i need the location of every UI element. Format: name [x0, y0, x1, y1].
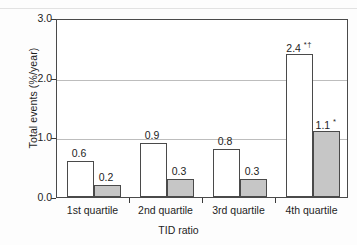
bar-value-label: 0.3	[157, 165, 202, 177]
x-category-label: 4th quartile	[275, 204, 348, 216]
bar-solid-2	[167, 179, 194, 197]
x-category-label: 3rd quartile	[202, 204, 275, 216]
significance-marker: *†	[304, 40, 312, 49]
bar-value-label: 2.4 *†	[273, 40, 326, 54]
x-category-label: 2nd quartile	[129, 204, 202, 216]
bar-value-label: 0.6	[57, 147, 102, 159]
y-tick-label: 0.0	[26, 191, 52, 203]
y-axis-ticks: 0.01.02.03.0	[22, 0, 52, 245]
x-tick-mark	[129, 198, 130, 203]
x-tick-mark	[275, 198, 276, 203]
scan-edge-line	[0, 8, 357, 9]
x-tick-mark	[202, 198, 203, 203]
significance-marker: *	[333, 117, 336, 126]
y-tick-mark	[51, 79, 56, 80]
y-tick-mark	[51, 198, 56, 199]
bar-value-label: 1.1 *	[300, 117, 353, 131]
y-tick-mark	[51, 19, 56, 20]
bar-solid-3	[240, 179, 267, 197]
figure-panel: Total events (%/year) 0.01.02.03.0 TID r…	[0, 0, 357, 245]
bar-value-label: 0.9	[130, 129, 175, 141]
bar-value-label: 0.8	[203, 135, 248, 147]
x-axis-title: TID ratio	[0, 224, 357, 236]
y-tick-mark	[51, 138, 56, 139]
bar-value-label: 0.2	[84, 171, 129, 183]
y-tick-label: 1.0	[26, 131, 52, 143]
y-tick-label: 3.0	[26, 12, 52, 24]
x-category-label: 1st quartile	[56, 204, 129, 216]
bar-solid-4	[313, 131, 340, 197]
bar-value-label: 0.3	[230, 165, 275, 177]
bar-solid-1	[94, 185, 121, 197]
y-tick-label: 2.0	[26, 72, 52, 84]
